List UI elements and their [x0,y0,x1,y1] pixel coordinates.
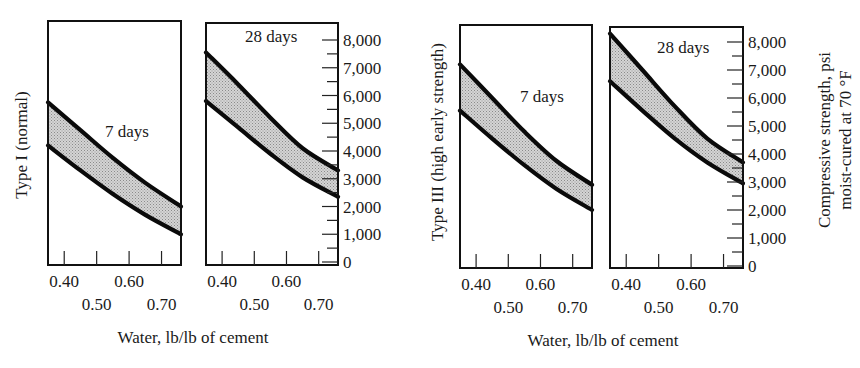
panel-title: 28 days [245,27,297,46]
y-tick-label: 6,000 [748,89,786,108]
y-tick-label: 8,000 [748,33,786,52]
y-tick-label: 4,000 [748,145,786,164]
panel-title: 7 days [105,122,149,141]
y-tick-label: 0 [343,253,352,272]
y-tick-label: 4,000 [343,142,381,161]
y-tick-label: 3,000 [343,170,381,189]
y-tick-label: 1,000 [343,225,381,244]
y-tick-label: 7,000 [343,59,381,78]
x-tick-label: 0.50 [644,298,674,317]
y-tick-label: 2,000 [343,198,381,217]
panel-title: 28 days [657,38,709,57]
y-tick-label: 8,000 [343,31,381,50]
x-tick-label: 0.40 [49,272,79,291]
group-label-type-i: Type I (normal) [12,91,31,198]
y-tick-label: 5,000 [343,114,381,133]
y-tick-label: 1,000 [748,229,786,248]
x-tick-label: 0.50 [239,295,269,314]
panel-3: 0.400.500.600.707 days [460,25,592,317]
y-tick-label: 7,000 [748,61,786,80]
x-axis-label-right: Water, lb/lb of cement [528,331,679,350]
x-tick-label: 0.60 [272,272,302,291]
panel-1: 0.400.500.600.707 days [48,21,181,314]
y-axis-label-line2: moist-cured at 70 °F [836,70,855,209]
x-tick-label: 0.70 [709,298,739,317]
panel-2: 0.400.500.600.7028 days01,0002,0003,0004… [206,23,381,314]
x-tick-label: 0.40 [611,275,641,294]
strength-vs-water-chart: Type I (normal) Type III (high early str… [0,0,860,368]
panel-title: 7 days [520,87,564,106]
x-tick-label: 0.50 [82,295,112,314]
x-tick-label: 0.40 [207,272,237,291]
x-tick-label: 0.70 [304,295,334,314]
x-tick-label: 0.60 [526,275,556,294]
group-label-type-iii: Type III (high early strength) [428,43,447,241]
x-axis-label-left: Water, lb/lb of cement [118,328,269,347]
x-tick-label: 0.70 [558,298,588,317]
y-tick-label: 3,000 [748,173,786,192]
y-tick-label: 6,000 [343,87,381,106]
x-tick-label: 0.40 [461,275,491,294]
x-tick-label: 0.70 [147,295,177,314]
y-tick-label: 2,000 [748,201,786,220]
x-tick-label: 0.60 [114,272,144,291]
panel-4: 0.400.500.600.7028 days01,0002,0003,0004… [610,27,786,317]
x-tick-label: 0.50 [493,298,523,317]
y-tick-label: 5,000 [748,117,786,136]
y-tick-label: 0 [748,257,757,276]
y-axis-label-line1: Compressive strength, psi [815,52,834,228]
x-tick-label: 0.60 [676,275,706,294]
